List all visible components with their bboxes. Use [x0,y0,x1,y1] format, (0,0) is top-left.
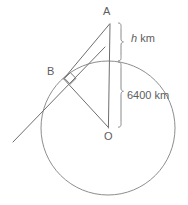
segment-a-to-o [108,24,110,128]
point-label-o: O [104,131,113,142]
point-label-b: B [47,66,54,77]
brace-radius [119,62,124,127]
segment-a-to-b [64,24,110,79]
measure-label-radius: 6400 km [127,90,169,101]
segment-b-to-o [64,79,108,127]
measure-label-height: h km [131,33,155,44]
tangent-line [13,47,105,142]
diagram-canvas [0,0,188,205]
measure-unit-height-text: km [140,32,155,44]
point-label-a: A [103,6,110,17]
brace-height [119,23,124,61]
geometry-diagram: A B O h km 6400 km [0,0,188,205]
